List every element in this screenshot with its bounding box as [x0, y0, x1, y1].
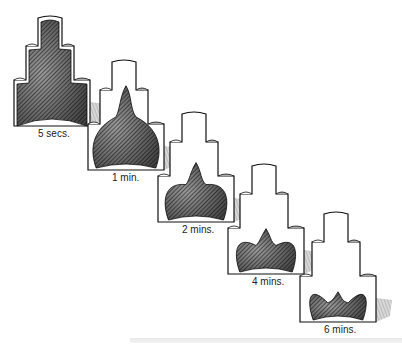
shadow [376, 298, 392, 322]
page-edge [130, 338, 402, 343]
time-label: 6 mins. [324, 324, 356, 335]
mould-sequence-drawing [0, 0, 402, 347]
time-label: 1 min. [112, 172, 139, 183]
time-label: 2 mins. [182, 224, 214, 235]
mould-stage-0 [14, 16, 106, 126]
time-label: 4 mins. [252, 276, 284, 287]
mould-stage-3 [228, 164, 320, 274]
diagram-canvas: 5 secs.1 min.2 mins.4 mins.6 mins. [0, 0, 402, 347]
mould-stage-4 [300, 212, 392, 322]
time-label: 5 secs. [38, 128, 70, 139]
mould-stage-1 [88, 60, 180, 170]
mould-stage-2 [158, 112, 250, 222]
